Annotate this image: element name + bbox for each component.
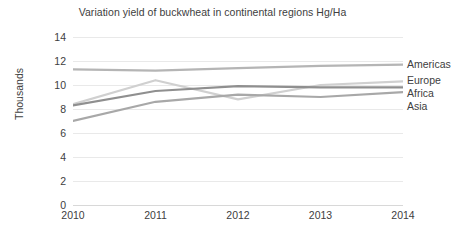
x-axis-tick-label: 2011: [121, 209, 191, 221]
x-axis-tick-label: 2013: [286, 209, 356, 221]
plot-area: 02468101214 20102011201220132014 America…: [73, 37, 403, 205]
y-axis-tick-label: 14: [22, 32, 66, 43]
series-label-europe: Europe: [407, 75, 441, 86]
y-axis-tick-label: 4: [22, 152, 66, 163]
x-axis-tick-label: 2014: [368, 209, 438, 221]
y-axis-tick-label: 2: [22, 176, 66, 187]
y-axis-tick-label: 8: [22, 104, 66, 115]
series-label-africa: Africa: [407, 88, 434, 99]
x-axis-tick-label: 2012: [203, 209, 273, 221]
series-label-americas: Americas: [407, 59, 451, 70]
x-axis-tick-label: 2010: [38, 209, 108, 221]
gridline: [73, 205, 403, 206]
series-label-asia: Asia: [407, 101, 427, 112]
y-axis-tick-label: 12: [22, 56, 66, 67]
y-axis-tick-label: 6: [22, 128, 66, 139]
chart-title: Variation yield of buckwheat in continen…: [0, 6, 425, 18]
y-axis-tick-label: 10: [22, 80, 66, 91]
series-line: [73, 80, 403, 104]
series-line: [73, 65, 403, 71]
series-lines: [73, 37, 403, 205]
